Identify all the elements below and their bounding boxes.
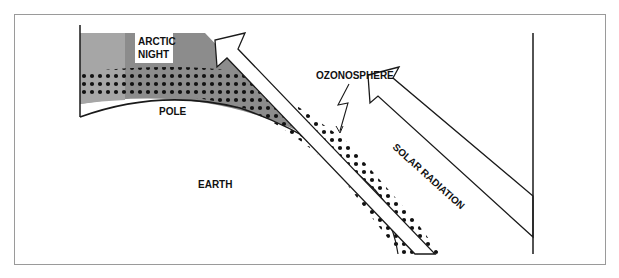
solar-radiation-arrow-short (215, 33, 435, 254)
pole-label: POLE (159, 106, 187, 117)
ozonosphere-label: OZONOSPHERE (316, 70, 394, 81)
arctic-night-label-line2: NIGHT (138, 49, 169, 60)
ozonosphere-pointer (338, 84, 349, 131)
earth-label: EARTH (198, 179, 232, 190)
ozone-diagram: ARCTIC NIGHT POLE EARTH OZONOSPHERE SOLA… (0, 0, 619, 278)
arctic-night-label-line1: ARCTIC (138, 36, 176, 47)
pointer-arrowhead-icon (336, 126, 343, 133)
